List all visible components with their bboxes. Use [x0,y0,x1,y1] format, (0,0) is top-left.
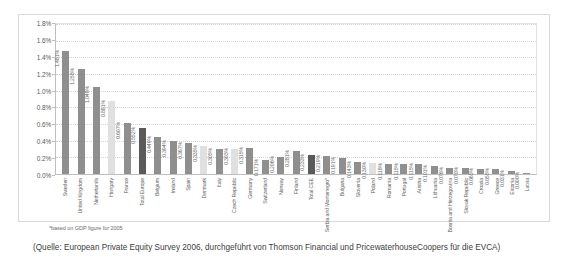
x-axis-category-label: Bulgaria [339,178,345,196]
bar[interactable]: 0.065% [477,169,484,174]
bar-value: 0.171% [251,142,257,159]
x-axis-category-label: Estonia [509,178,515,195]
bar[interactable]: 0.219% [323,156,330,174]
source-caption: (Quelle: European Private Equity Survey … [33,243,500,252]
y-axis-tick-mark [52,23,55,24]
bar[interactable]: 0.143% [354,162,361,174]
bar[interactable]: 0.118% [385,164,392,174]
x-label-slot: Hungary [103,177,118,221]
bar-value: 0.305% [205,131,211,148]
x-label-slot: Netherlands [88,177,103,221]
bar-value-label: 0.335% [192,145,198,162]
bar[interactable]: 0.305% [216,149,223,174]
bar[interactable]: 0.206% [277,157,284,174]
bar-value: 0.118% [374,147,380,164]
x-axis-category-label: Spain [185,178,191,191]
x-axis-category-label: Bosnia and Herzegovina [447,178,453,232]
x-axis-category-label: Sweden [62,178,68,196]
x-label-slot: Lithuania [427,177,442,221]
plot-wrapper: 1.481%1.258%1.048%0.881%0.607%0.552%0.44… [55,23,537,175]
x-axis-category-label: Norway [278,178,284,195]
x-label-slot: Denmark [196,177,211,221]
bar-value-label: 0.552% [131,127,137,144]
x-label-slot: France [119,177,134,221]
x-axis-category-label: Switzerland [262,178,268,204]
bar-value: 0.607% [113,105,119,122]
x-axis-category-label: Croatia [478,178,484,194]
bar-value-label: 0.303% [223,148,229,165]
x-label-slot: Latvia [520,177,535,221]
x-axis-category-label: Finland [293,178,299,194]
x-axis-category-label: Lithuania [432,178,438,198]
bar-value-label: 1.258% [69,68,75,85]
bar[interactable]: 0.394% [170,141,177,174]
x-axis-category-label: Ireland [170,178,176,193]
x-label-slot: Estonia [504,177,519,221]
x-axis-category-label: Romania [386,178,392,198]
x-axis-category-label: Greece [494,178,500,194]
y-axis-tick-label: 0.6% [37,121,51,128]
x-label-slot: Slovenia [350,177,365,221]
bar[interactable]: 0.130% [369,163,376,174]
chart-frame: 1.481%1.258%1.048%0.881%0.607%0.552%0.44… [18,14,550,222]
x-axis-category-label: Slovak Republic [463,178,469,214]
bar-value: 0.031% [497,153,503,170]
bar[interactable]: 0.449% [154,137,161,174]
bar-value-label: 0.607% [116,122,122,139]
y-axis-tick-mark [52,124,55,125]
bar-value-label: 0.881% [100,100,106,117]
bar[interactable]: 0.171% [262,160,269,174]
x-axis-labels: SwedenUnited KingdomNetherlandsHungaryFr… [55,177,537,221]
bar-value: 1.481% [51,33,57,50]
bar-value: 0.394% [159,123,165,140]
x-label-slot: Czech Republic [227,177,242,221]
x-axis-category-label: France [123,178,129,194]
bar-value: 0.070% [450,150,456,167]
x-axis-category-label: Czech Republic [231,178,237,213]
bar[interactable]: 0.055% [492,169,499,174]
bar-value-label: 0.233% [300,154,306,171]
bar[interactable]: 0.070% [462,168,469,174]
y-axis-tick-label: 0.2% [37,155,51,162]
x-label-slot: Poland [365,177,380,221]
x-label-slot: Ireland [165,177,180,221]
bar-value: 0.315% [235,130,241,147]
bar-value: 0.076% [435,150,441,167]
y-axis-tick-mark [52,175,55,176]
bar-value: 0.881% [97,83,103,100]
bar-value-label: 1.481% [54,50,60,67]
bar[interactable]: 0.115% [415,164,422,174]
x-label-slot: Portugal [396,177,411,221]
bar-value: 0.055% [481,151,487,168]
bar-value-label: 0.367% [177,142,183,159]
bar-value: 0.233% [297,137,303,154]
bar-value: 0.115% [405,147,411,164]
x-label-slot: Finland [288,177,303,221]
y-axis-tick-mark [52,57,55,58]
y-axis-tick-label: 1.6% [37,36,51,43]
bar[interactable]: 0.335% [200,146,207,174]
bar-slot: 0.055% [488,24,503,174]
bar-value: 0.000% [512,155,518,172]
bar[interactable]: 0.000% [523,173,530,174]
y-axis-tick-mark [52,91,55,92]
bar[interactable]: 0.115% [400,164,407,174]
bar[interactable]: 1.481% [62,51,69,174]
y-axis-tick-label: 1.4% [37,53,51,60]
bar-slot: 0.000% [519,24,534,174]
bar[interactable]: 0.367% [185,143,192,174]
x-axis-category-label: Total CEE [308,178,314,200]
bar[interactable]: 0.303% [231,149,238,174]
x-label-slot: Austria [412,177,427,221]
bar-value-label: 0.171% [254,159,260,176]
bar-slot: 0.607% [119,24,134,174]
y-axis-tick-mark [52,40,55,41]
bar[interactable]: 0.233% [308,155,315,174]
y-axis-tick-label: 0.4% [37,138,51,145]
y-axis-tick-label: 1.2% [37,70,51,77]
x-axis-category-label: Poland [370,178,376,194]
x-label-slot: Total CEE [304,177,319,221]
bar[interactable]: 0.076% [446,168,453,174]
y-axis-tick-label: 0.0% [37,172,51,179]
x-axis-category-label: Portugal [401,178,407,197]
